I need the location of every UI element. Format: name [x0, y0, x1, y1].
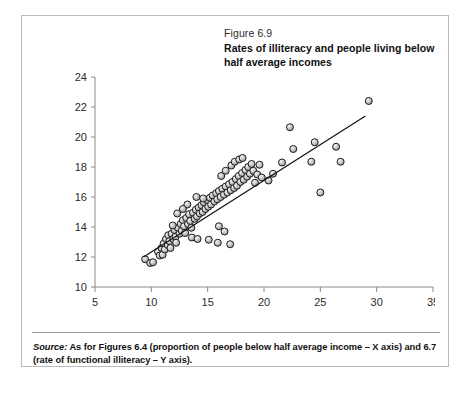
data-points [142, 98, 373, 267]
svg-text:30: 30 [371, 296, 383, 308]
svg-text:20: 20 [75, 131, 87, 143]
svg-text:35: 35 [427, 296, 435, 308]
y-axis: 1012141618202224 [75, 71, 95, 293]
svg-text:22: 22 [75, 101, 87, 113]
figure-number: Figure 6.9 [224, 26, 442, 40]
source-text: As for Figures 6.4 (proportion of people… [33, 342, 436, 365]
figure-card: Figure 6.9 Rates of illiteracy and peopl… [21, 15, 449, 367]
svg-text:18: 18 [75, 161, 87, 173]
svg-text:10: 10 [145, 296, 157, 308]
source-label: Source: [33, 342, 67, 352]
scatter-plot: 1012141618202224 5101520253035 [61, 71, 435, 316]
svg-text:20: 20 [258, 296, 270, 308]
page-title: Rates of illiteracy and people living be… [224, 42, 442, 69]
svg-text:5: 5 [92, 296, 98, 308]
svg-text:14: 14 [75, 221, 87, 233]
trend-line [143, 116, 365, 257]
svg-text:24: 24 [75, 71, 87, 83]
svg-text:12: 12 [75, 251, 87, 263]
svg-text:15: 15 [202, 296, 214, 308]
x-axis: 5101520253035 [92, 287, 435, 308]
svg-text:16: 16 [75, 191, 87, 203]
svg-text:25: 25 [314, 296, 326, 308]
figure-header: Figure 6.9 Rates of illiteracy and peopl… [224, 26, 442, 69]
plot-svg: 1012141618202224 5101520253035 [61, 71, 435, 316]
source-note: Source: As for Figures 6.4 (proportion o… [33, 341, 441, 367]
svg-text:10: 10 [75, 281, 87, 293]
divider [32, 332, 440, 333]
